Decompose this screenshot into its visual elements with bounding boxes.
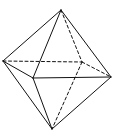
edge-back-bottom <box>52 62 82 129</box>
edge-right-bottom <box>52 77 111 129</box>
edge-left-front <box>3 61 33 78</box>
edge-top-front <box>33 10 61 78</box>
edge-top-left <box>3 10 61 61</box>
edge-left-bottom <box>3 61 52 129</box>
edge-back-right <box>82 62 111 77</box>
edge-front-bottom <box>33 78 52 129</box>
octahedron-diagram <box>0 0 119 137</box>
octahedron-edges <box>3 10 111 129</box>
edge-front-right <box>33 77 111 78</box>
edge-top-right <box>61 10 111 77</box>
edge-top-back <box>61 10 82 62</box>
edge-left-back <box>3 61 82 62</box>
